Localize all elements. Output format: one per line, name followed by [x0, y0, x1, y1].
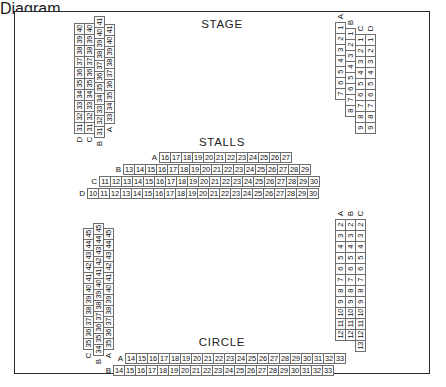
seat-column-circle-left-A: 4544434241403938373635 [103, 228, 114, 350]
seat-row-circle-B: 1415161718192021222324252627282930313233 [113, 365, 334, 376]
seat[interactable]: 33 [322, 365, 334, 376]
seat-blocks: 40393837363534333231D4039383736353433323… [15, 12, 429, 373]
seating-plan: STAGE STALLS CIRCLE 40393837363534333231… [14, 11, 430, 374]
column-label-stalls-left-B: B [94, 139, 105, 148]
seat-row-circle-A: 1415161718192021222324252627282930313233 [125, 353, 346, 364]
seat[interactable]: 9 [365, 122, 376, 134]
column-label-stalls-left-A: A [104, 125, 115, 134]
row-label-stalls-D: D [73, 188, 85, 199]
row-label-stalls-B: B [109, 164, 121, 175]
column-label-stalls-right-D: D [365, 24, 376, 33]
row-label-stalls-C: C [85, 176, 97, 187]
seat[interactable]: 13 [355, 340, 366, 352]
seat-row-stalls-B: 1314151617181920212223242526272829 [123, 164, 311, 175]
seat[interactable]: 30 [307, 188, 319, 199]
seat[interactable]: 27 [280, 152, 292, 163]
seat-column-circle-right-C: 2345678910111213 [355, 219, 366, 352]
column-label-circle-right-C: C [355, 209, 366, 218]
seat[interactable]: 29 [299, 164, 311, 175]
seat[interactable]: 30 [308, 176, 320, 187]
seat[interactable]: 33 [104, 112, 115, 124]
seat-column-stalls-right-D: 123456789 [365, 34, 376, 134]
row-label-circle-B: B [99, 365, 111, 376]
seat-row-stalls-A: 161718192021222324252627 [159, 152, 292, 163]
seat[interactable]: 33 [334, 353, 346, 364]
row-label-stalls-A: A [145, 152, 157, 163]
seat-column-stalls-left-A: 414039383736353433 [104, 24, 115, 124]
seat-row-stalls-C: 1112131415161718192021222324252627282930 [99, 176, 320, 187]
seat-row-stalls-D: 1011121314151617181920212223242526272829… [87, 188, 319, 199]
row-label-circle-A: A [111, 353, 123, 364]
seat[interactable]: 35 [103, 338, 114, 350]
